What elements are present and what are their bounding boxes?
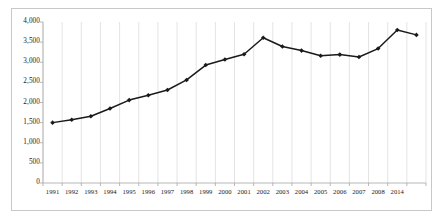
x-axis-tick-label: 1993 xyxy=(84,189,97,196)
x-axis-tick-label: 1996 xyxy=(142,189,155,196)
x-axis-tick-label: 2005 xyxy=(314,189,327,196)
x-axis-tick-label: 2006 xyxy=(333,189,346,196)
chart-frame: 05001,0001,5002,0002,5003,0003,5004,000 … xyxy=(11,8,432,211)
x-axis-tick-labels: 1991199219931994199519961997199819992000… xyxy=(12,9,431,210)
x-axis-tick-label: 2002 xyxy=(257,189,270,196)
x-axis-tick-label: 1992 xyxy=(65,189,78,196)
x-axis-tick-label: 2000 xyxy=(218,189,231,196)
x-axis-tick-label: 2003 xyxy=(276,189,289,196)
x-axis-tick-label: 2004 xyxy=(295,189,308,196)
x-axis-tick-label: 1999 xyxy=(199,189,212,196)
x-axis-tick-label: 2014 xyxy=(391,189,404,196)
x-axis-tick-label: 1998 xyxy=(180,189,193,196)
x-axis-tick-label: 2008 xyxy=(371,189,384,196)
x-axis-tick-label: 1994 xyxy=(103,189,116,196)
x-axis-tick-label: 1995 xyxy=(122,189,135,196)
x-axis-tick-label: 2001 xyxy=(237,189,250,196)
x-axis-tick-label: 1991 xyxy=(46,189,59,196)
x-axis-tick-label: 2007 xyxy=(352,189,365,196)
chart-plot-area: 05001,0001,5002,0002,5003,0003,5004,000 … xyxy=(12,9,431,210)
x-axis-tick-label: 1997 xyxy=(161,189,174,196)
